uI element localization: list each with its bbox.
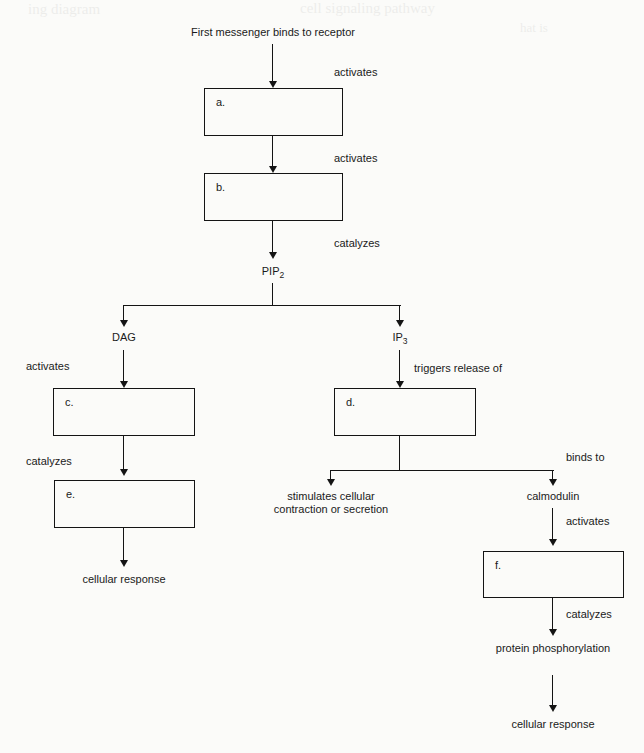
- arrowhead-a-to-b: [269, 166, 277, 173]
- edge-start-to-a: [272, 44, 273, 82]
- edge-label-f-to-phosphorylation: catalyzes: [566, 608, 612, 621]
- answer-box-c-label: c.: [65, 396, 74, 408]
- arrowhead-phosphorylation-to-response: [549, 705, 557, 712]
- edge-calmodulin-to-f: [552, 508, 553, 540]
- node-pip2-text: PIP: [262, 265, 280, 277]
- arrowhead-d-to-stimulates: [327, 479, 335, 486]
- arrowhead-b-to-pip2: [269, 252, 277, 259]
- edge-label-ip3-to-d: triggers release of: [414, 362, 502, 375]
- node-ip3-text: IP: [392, 331, 402, 343]
- edge-label-start-to-a: activates: [334, 66, 377, 79]
- node-pip2-subscript: 2: [280, 270, 285, 280]
- node-ip3-subscript: 3: [403, 336, 408, 346]
- answer-box-e-label: e.: [66, 488, 75, 500]
- answer-box-a-label: a.: [216, 96, 225, 108]
- answer-box-f-label: f.: [495, 559, 501, 571]
- node-cellular-response-right: cellular response: [511, 718, 594, 731]
- node-stimulates-block: stimulates cellular contraction or secre…: [271, 490, 391, 516]
- answer-box-f[interactable]: f.: [483, 551, 624, 598]
- node-dag: DAG: [112, 331, 136, 344]
- edge-a-to-b: [272, 136, 273, 170]
- bleed-through-text-top-right: cell signaling pathway: [300, 0, 435, 17]
- arrowhead-ip3-to-d: [396, 381, 404, 388]
- bleed-through-text-right: hat is: [520, 20, 548, 36]
- edge-phosphorylation-to-response: [552, 675, 553, 707]
- arrowhead-e-to-response: [120, 560, 128, 567]
- arrowhead-f-to-phosphorylation: [549, 629, 557, 636]
- arrowhead-c-to-e: [120, 469, 128, 476]
- answer-box-c[interactable]: c.: [53, 388, 195, 436]
- edge-d-stem: [399, 436, 400, 471]
- edge-pip2-stem: [272, 283, 273, 306]
- edge-label-c-to-e: catalyzes: [26, 455, 72, 468]
- node-dag-text: DAG: [112, 331, 136, 343]
- edge-f-to-phosphorylation: [552, 598, 553, 631]
- edge-dag-to-c: [123, 350, 124, 382]
- answer-box-d[interactable]: d.: [334, 388, 476, 436]
- node-cellular-response-left: cellular response: [82, 573, 165, 586]
- start-node-label: First messenger binds to receptor: [191, 26, 355, 39]
- node-calmodulin: calmodulin: [527, 490, 580, 503]
- edge-label-dag-to-c: activates: [26, 360, 69, 373]
- flowchart-page: ing diagram cell signaling pathway hat i…: [0, 0, 644, 753]
- node-ip3: IP3: [392, 331, 407, 345]
- answer-box-a[interactable]: a.: [204, 88, 343, 136]
- edge-label-b-to-pip2: catalyzes: [334, 237, 380, 250]
- node-protein-phosphorylation: protein phosphorylation: [493, 642, 613, 655]
- arrowhead-pip2-to-dag: [120, 320, 128, 327]
- edge-e-to-response: [123, 528, 124, 562]
- edge-label-a-to-b: activates: [334, 152, 377, 165]
- edge-b-to-pip2: [272, 221, 273, 255]
- answer-box-b-label: b.: [216, 181, 225, 193]
- edge-pip2-split-bar: [124, 305, 401, 306]
- arrowhead-pip2-to-ip3: [396, 320, 404, 327]
- arrowhead-dag-to-c: [120, 381, 128, 388]
- edge-label-calmodulin-to-f: activates: [566, 515, 609, 528]
- edge-d-split-bar: [331, 470, 554, 471]
- node-pip2: PIP2: [262, 265, 284, 279]
- edge-label-d-to-calmodulin: binds to: [566, 451, 605, 464]
- arrowhead-start-to-a: [269, 81, 277, 88]
- answer-box-d-label: d.: [346, 396, 355, 408]
- answer-box-b[interactable]: b.: [204, 173, 343, 221]
- edge-c-to-e: [123, 436, 124, 470]
- bleed-through-text-top-left: ing diagram: [28, 1, 100, 18]
- edge-ip3-to-d: [399, 350, 400, 382]
- arrowhead-d-to-calmodulin: [549, 479, 557, 486]
- answer-box-e[interactable]: e.: [54, 480, 195, 528]
- arrowhead-calmodulin-to-f: [549, 539, 557, 546]
